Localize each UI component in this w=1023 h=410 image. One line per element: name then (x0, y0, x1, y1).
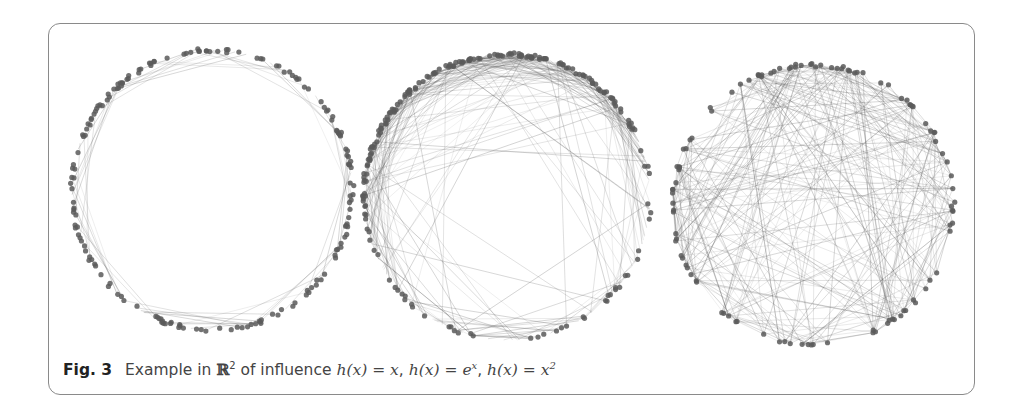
node (124, 77, 129, 82)
node (517, 54, 522, 59)
node (799, 63, 804, 68)
node (468, 56, 473, 61)
panel-influence-quadratic (670, 61, 957, 347)
edge (433, 318, 585, 319)
node (855, 70, 860, 75)
node (282, 70, 287, 75)
edge (114, 53, 187, 90)
edge (676, 241, 812, 345)
node (729, 90, 734, 95)
node (416, 80, 421, 85)
edge (740, 83, 880, 84)
node (345, 148, 350, 153)
node (721, 311, 726, 316)
node (136, 70, 141, 75)
node (437, 66, 442, 71)
node (152, 59, 157, 64)
node (168, 321, 173, 326)
node (558, 60, 563, 65)
node (636, 248, 641, 253)
node (330, 114, 335, 119)
node (194, 326, 199, 331)
node (679, 253, 684, 258)
edge (299, 79, 352, 195)
edge (488, 328, 561, 339)
node (582, 74, 587, 79)
node (911, 297, 916, 302)
space-exponent: 2 (229, 360, 235, 371)
node (240, 325, 245, 330)
node (947, 229, 952, 234)
edge (691, 275, 808, 345)
node (199, 327, 204, 332)
node (759, 74, 764, 79)
node (119, 294, 124, 299)
edge (81, 241, 153, 317)
node (544, 56, 549, 61)
node (447, 62, 452, 67)
edge (365, 206, 428, 316)
real-space-symbol: ℝ (216, 360, 229, 379)
node (71, 205, 76, 210)
edge (251, 247, 341, 324)
node (197, 49, 202, 54)
node (275, 312, 280, 317)
node (788, 341, 793, 346)
figure-caption: Fig. 3 Example in ℝ2 of influence h(x) =… (63, 360, 556, 379)
node (369, 144, 374, 149)
node (554, 328, 559, 333)
edge (76, 215, 123, 298)
node (927, 278, 932, 283)
node (188, 50, 193, 55)
node (290, 73, 295, 78)
edge (285, 255, 335, 309)
node (899, 96, 904, 101)
node (646, 164, 651, 169)
node (923, 121, 928, 126)
node (383, 121, 388, 126)
node (290, 304, 295, 309)
node (361, 198, 366, 203)
node (800, 342, 805, 347)
node (635, 257, 640, 262)
node (689, 135, 694, 140)
node (93, 263, 98, 268)
node (648, 210, 653, 215)
node (771, 69, 776, 74)
node (934, 270, 939, 275)
caption-prefix: Example in (125, 361, 211, 379)
edge (206, 50, 292, 75)
node (529, 55, 534, 60)
node (82, 243, 87, 248)
node (68, 181, 73, 186)
node (673, 231, 678, 236)
node (564, 324, 569, 329)
node (86, 258, 91, 263)
node (613, 285, 618, 290)
node (623, 273, 628, 278)
node (71, 162, 76, 167)
node (846, 67, 851, 72)
node (147, 60, 152, 65)
node (374, 139, 379, 144)
node (245, 324, 250, 329)
node (253, 321, 258, 326)
node (685, 265, 690, 270)
node (726, 313, 731, 318)
node (952, 200, 957, 205)
node (375, 252, 380, 257)
node (673, 180, 678, 185)
node (949, 173, 954, 178)
edge (410, 90, 456, 330)
node (688, 272, 693, 277)
node (319, 277, 324, 282)
node (236, 49, 241, 54)
node (426, 75, 431, 80)
edge (72, 88, 118, 195)
node (324, 108, 329, 113)
node (681, 146, 686, 151)
edge (832, 68, 936, 142)
edge (72, 83, 120, 182)
node (746, 78, 751, 83)
node (945, 159, 950, 164)
